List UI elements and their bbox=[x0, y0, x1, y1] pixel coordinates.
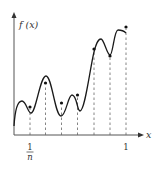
sample-points bbox=[28, 25, 127, 108]
riemann-sum-diagram: f (x) x 1 n 1 bbox=[0, 0, 156, 169]
sample-dot bbox=[92, 47, 95, 50]
x-axis-label: x bbox=[146, 129, 152, 140]
sample-dot bbox=[44, 81, 47, 84]
function-curve bbox=[14, 30, 126, 126]
sample-dot bbox=[28, 105, 31, 108]
tick-label-1-over-n-denominator: n bbox=[27, 152, 32, 162]
y-axis-label: f (x) bbox=[18, 19, 39, 30]
tick-label-1-over-n-numerator: 1 bbox=[27, 142, 32, 152]
sample-dot bbox=[108, 54, 111, 57]
sample-dot bbox=[76, 93, 79, 96]
tick-label-1: 1 bbox=[123, 142, 128, 152]
y-axis-arrow-icon bbox=[12, 12, 17, 18]
sample-dot bbox=[124, 25, 127, 28]
sample-dot bbox=[60, 101, 63, 104]
x-axis-arrow-icon bbox=[138, 133, 144, 138]
